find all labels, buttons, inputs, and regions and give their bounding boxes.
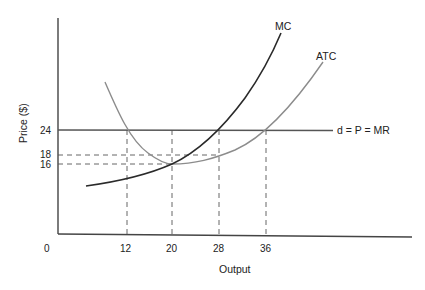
demand-line	[58, 130, 333, 131]
x-tick-12: 12	[120, 243, 132, 254]
demand-label: d = P = MR	[337, 124, 390, 136]
x-axis-title: Output	[219, 263, 251, 275]
atc-curve	[105, 62, 323, 164]
cost-curves-chart: MC ATC d = P = MR 24 18 16 0 12 20 28 36…	[0, 0, 425, 290]
x-tick-20: 20	[166, 243, 178, 254]
x-tick-36: 36	[260, 243, 272, 254]
reference-lines	[58, 130, 266, 236]
y-axis-title: Price ($)	[17, 103, 29, 143]
x-tick-28: 28	[213, 243, 225, 254]
atc-label: ATC	[316, 50, 337, 62]
y-tick-24: 24	[40, 125, 52, 136]
origin-label: 0	[44, 243, 50, 254]
y-tick-16: 16	[40, 159, 52, 170]
mc-label: MC	[275, 20, 292, 32]
x-axis	[58, 234, 412, 237]
